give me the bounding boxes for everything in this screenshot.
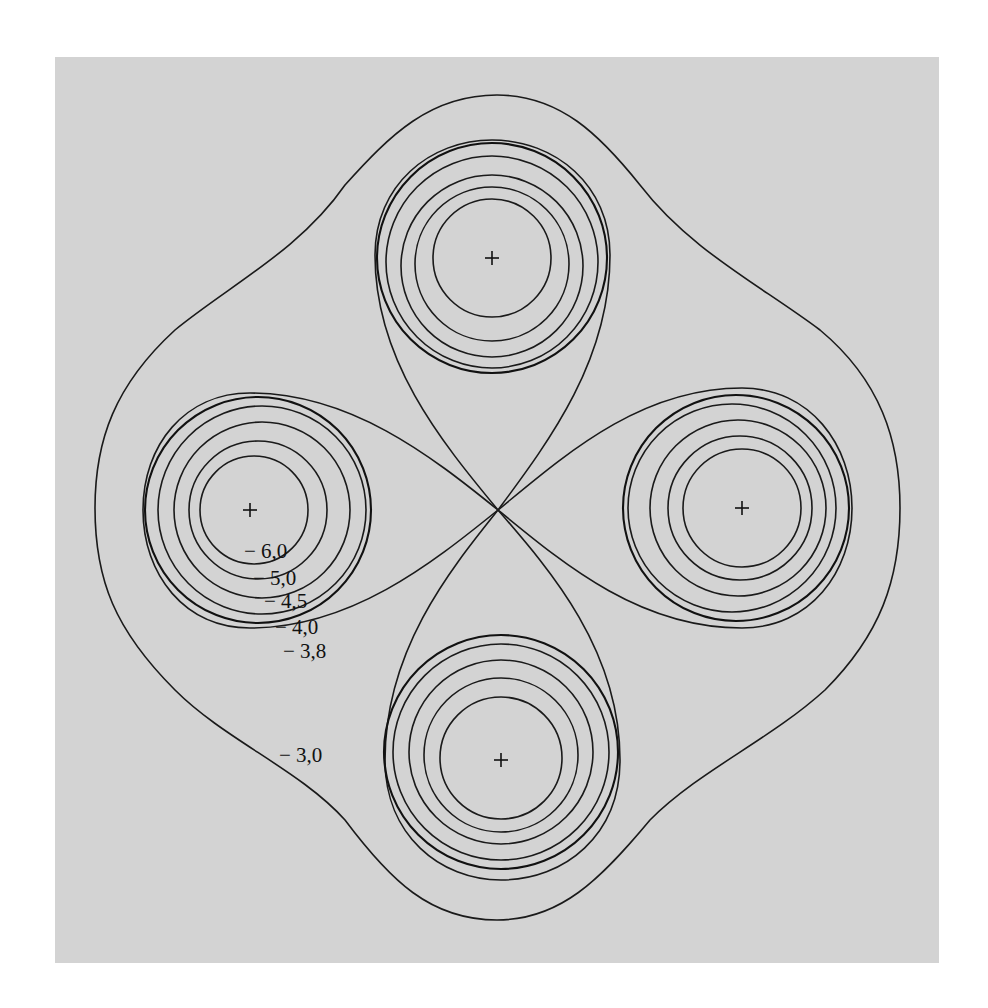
label-minus-4-0: − 4,0 [275, 615, 318, 639]
well-bottom [384, 635, 618, 869]
minimum-marker-right [735, 501, 749, 515]
label-minus-3-8: − 3,8 [283, 639, 326, 663]
label-minus-6-0: − 6,0 [244, 539, 287, 563]
minimum-marker-left [243, 503, 257, 517]
minimum-marker-top [485, 251, 499, 265]
minimum-marker-bottom [494, 753, 508, 767]
contour-minus-3-0 [95, 95, 900, 920]
label-minus-3-0: − 3,0 [279, 743, 322, 767]
contour-plot: − 6,0 − 5,0 − 4,5 − 4,0 − 3,8 − 3,0 [0, 0, 988, 1008]
label-minus-5-0: − 5,0 [253, 566, 296, 590]
label-minus-4-5: − 4,5 [264, 589, 307, 613]
